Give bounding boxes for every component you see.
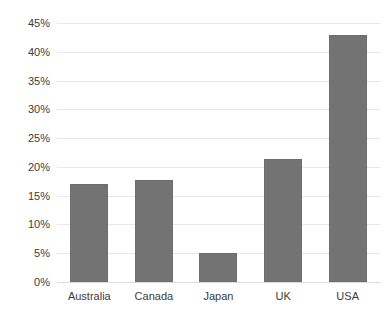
bar-slot [252,23,314,282]
axis-baseline [57,282,380,283]
bar-slot [123,23,185,282]
y-tick-label: 5% [0,248,50,259]
y-tick-label: 20% [0,161,50,172]
plot-area [57,23,380,282]
x-tick-label: USA [317,290,379,303]
x-tick-label: Australia [58,290,120,303]
bar-slot [317,23,379,282]
y-tick-label: 10% [0,219,50,230]
y-tick-label: 25% [0,133,50,144]
y-tick-label: 30% [0,104,50,115]
y-tick-label: 45% [0,18,50,29]
x-axis: AustraliaCanadaJapanUKUSA [57,290,380,303]
bar-slot [58,23,120,282]
bar[interactable] [70,184,108,282]
x-tick-label: Japan [187,290,249,303]
bar[interactable] [264,159,302,282]
y-tick-label: 40% [0,46,50,57]
y-tick-label: 35% [0,75,50,86]
y-tick-label: 0% [0,277,50,288]
y-tick-label: 15% [0,190,50,201]
bar[interactable] [135,180,173,282]
bar-slot [187,23,249,282]
x-tick-label: Canada [123,290,185,303]
bar-chart: 0%5%10%15%20%25%30%35%40%45% AustraliaCa… [0,0,392,319]
y-axis: 0%5%10%15%20%25%30%35%40%45% [0,0,50,319]
bar[interactable] [199,253,237,282]
x-tick-label: UK [252,290,314,303]
bars-group [57,23,380,282]
bar[interactable] [329,35,367,282]
